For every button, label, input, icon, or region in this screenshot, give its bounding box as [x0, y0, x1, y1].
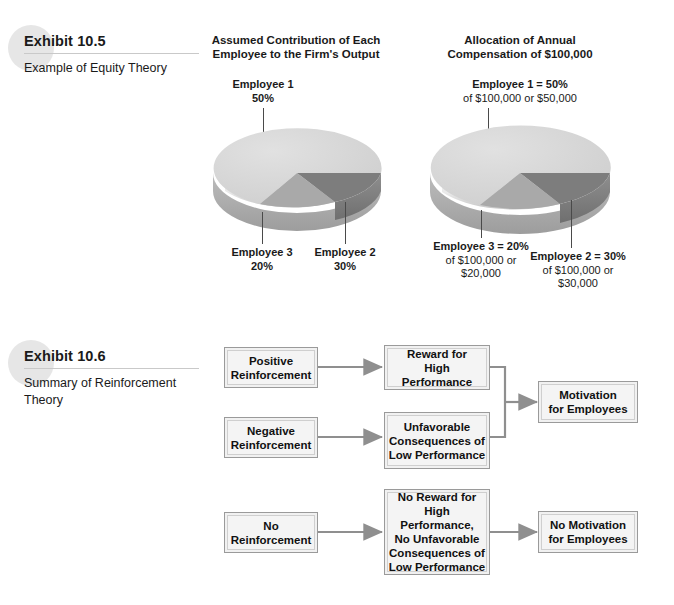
flow-box-positive-reinforcement-label: Positive Reinforcement — [227, 350, 315, 385]
flow-box-no-reinforcement-label: No Reinforcement — [227, 515, 315, 550]
flow-box-unfavorable-consequences-label: Unfavorable Consequences of Low Performa… — [387, 415, 487, 466]
exhibit-caption: Example of Equity Theory — [24, 60, 204, 77]
flow-box-no-reward-no-unfavorable[interactable]: No Reward for High Performance, No Unfav… — [384, 489, 490, 575]
flow-box-negative-reinforcement-label: Negative Reinforcement — [227, 420, 315, 455]
exhibit-number: Exhibit 10.5 — [24, 33, 204, 53]
exhibit-divider-2 — [24, 368, 199, 369]
flow-box-negative-reinforcement[interactable]: Negative Reinforcement — [224, 417, 318, 458]
exhibit-caption-2: Summary of Reinforcement Theory — [24, 375, 204, 409]
flow-box-no-reinforcement[interactable]: No Reinforcement — [224, 512, 318, 553]
flow-box-no-motivation-label: No Motivation for Employees — [541, 514, 635, 550]
flow-box-reward-high-performance-label: Reward for High Performance — [387, 348, 487, 387]
flow-box-positive-reinforcement[interactable]: Positive Reinforcement — [224, 347, 318, 388]
flow-box-no-reward-no-unfavorable-label: No Reward for High Performance, No Unfav… — [387, 492, 487, 572]
flow-box-reward-high-performance[interactable]: Reward for High Performance — [384, 345, 490, 390]
exhibit-number-2: Exhibit 10.6 — [24, 348, 204, 368]
exhibit-10-6-label: Exhibit 10.6 Summary of Reinforcement Th… — [24, 348, 204, 409]
exhibit-divider — [24, 53, 199, 54]
flow-box-motivation[interactable]: Motivation for Employees — [538, 381, 638, 423]
flow-box-motivation-label: Motivation for Employees — [541, 384, 635, 420]
flow-box-unfavorable-consequences[interactable]: Unfavorable Consequences of Low Performa… — [384, 412, 490, 469]
flow-box-no-motivation[interactable]: No Motivation for Employees — [538, 511, 638, 553]
